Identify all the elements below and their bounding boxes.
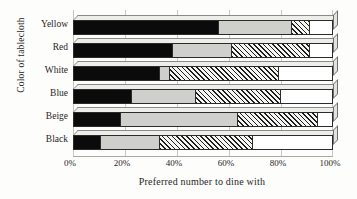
segment-series-4 (309, 44, 332, 57)
bar-yellow (73, 20, 333, 35)
y-axis-category-labels: Yellow Red White Blue Beige Black (12, 16, 68, 156)
bar-black (73, 135, 333, 150)
segment-series-3 (291, 21, 309, 34)
segment-series-3 (159, 136, 252, 149)
x-axis-title: Preferred number to dine with (70, 176, 334, 187)
segment-series-1 (74, 136, 100, 149)
bar-track (73, 43, 333, 58)
bar-track (73, 89, 333, 104)
bar-track (73, 20, 333, 35)
segment-series-2 (159, 67, 169, 80)
segment-series-4 (278, 67, 332, 80)
bar-track (73, 112, 333, 127)
bar-side-face (333, 33, 338, 53)
bar-track (73, 66, 333, 81)
x-tick-label-0: 0% (50, 158, 90, 168)
segment-series-4 (317, 113, 332, 126)
segment-series-2 (172, 44, 231, 57)
stacked-bar-chart: Color of tablecloth Yellow Red White Blu… (0, 0, 357, 199)
y-tick-label-white: White (12, 65, 68, 75)
x-axis-tick-labels: 0% 20% 40% 60% 80% 100% (0, 158, 357, 172)
x-tick-label-80: 80% (258, 158, 298, 168)
segment-series-3 (231, 44, 308, 57)
segment-series-3 (237, 113, 317, 126)
x-tick-label-40: 40% (154, 158, 194, 168)
bar-track (73, 135, 333, 150)
segment-series-1 (74, 44, 172, 57)
segment-series-1 (74, 21, 218, 34)
bar-side-face (333, 102, 338, 122)
bar-blue (73, 89, 333, 104)
bar-white (73, 66, 333, 81)
bar-side-face (333, 125, 338, 145)
segment-series-2 (120, 113, 236, 126)
segment-series-1 (74, 113, 120, 126)
bar-beige (73, 112, 333, 127)
bar-side-face (333, 79, 338, 99)
segment-series-2 (218, 21, 290, 34)
bar-side-face (333, 56, 338, 76)
segment-series-4 (309, 21, 332, 34)
segment-series-4 (280, 90, 332, 103)
segment-series-4 (252, 136, 332, 149)
x-tick-label-100: 100% (310, 158, 350, 168)
y-tick-label-red: Red (12, 42, 68, 52)
segment-series-3 (169, 67, 277, 80)
bar-side-face (333, 10, 338, 30)
y-tick-label-yellow: Yellow (12, 19, 68, 29)
x-axis-line (73, 156, 333, 157)
segment-series-2 (131, 90, 196, 103)
x-tick-label-20: 20% (102, 158, 142, 168)
bar-red (73, 43, 333, 58)
y-tick-label-blue: Blue (12, 88, 68, 98)
segment-series-3 (195, 90, 280, 103)
segment-series-1 (74, 90, 131, 103)
segment-series-2 (100, 136, 159, 149)
x-tick-label-60: 60% (206, 158, 246, 168)
y-tick-label-beige: Beige (12, 111, 68, 121)
y-tick-label-black: Black (12, 134, 68, 144)
plot-area (73, 16, 333, 156)
segment-series-1 (74, 67, 159, 80)
